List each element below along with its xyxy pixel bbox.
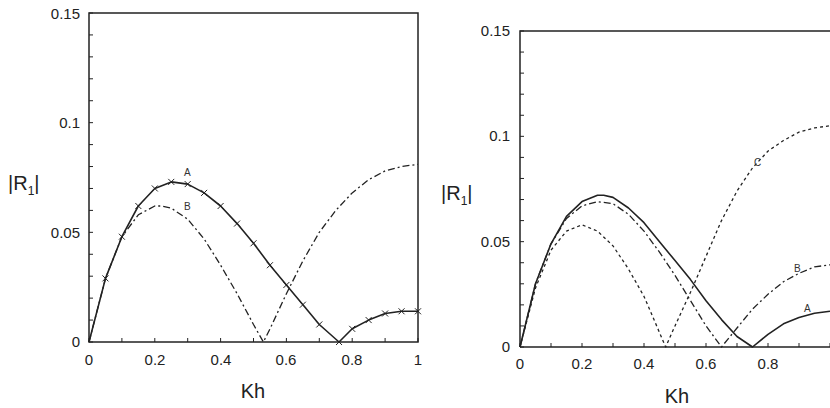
left-curves bbox=[89, 164, 421, 345]
right-xtick-0.6: 0.6 bbox=[696, 355, 717, 372]
left-ytick-0.05: 0.05 bbox=[51, 224, 80, 241]
left-x-marker-icon bbox=[349, 326, 355, 332]
right-xaxis-title: Kh bbox=[665, 385, 689, 407]
right-axis-ticks bbox=[520, 31, 830, 347]
left-ytick-0.1: 0.1 bbox=[59, 114, 80, 131]
right-yaxis-title: |R1| bbox=[441, 182, 473, 208]
left-chart-panel: 0 0.05 0.1 0.15 0 0.2 0.4 0.6 0.8 1 Kh |… bbox=[8, 5, 422, 402]
right-curves bbox=[520, 126, 830, 347]
right-chart-panel: 0 0.05 0.1 0.15 0 0.2 0.4 0.6 0.8 Kh |R1… bbox=[441, 22, 830, 407]
left-axis-ticks bbox=[89, 13, 418, 342]
left-ytick-0.15: 0.15 bbox=[51, 5, 80, 22]
right-ytick-0.15: 0.15 bbox=[481, 22, 510, 39]
right-label-a: A bbox=[804, 303, 811, 314]
left-label-b: B bbox=[184, 201, 191, 212]
left-curve-b bbox=[89, 164, 418, 342]
right-label-b: B bbox=[794, 263, 801, 274]
left-label-a: A bbox=[184, 167, 191, 178]
left-xtick-0.2: 0.2 bbox=[145, 351, 166, 368]
left-plot-frame bbox=[89, 13, 418, 342]
left-x-marker-icon bbox=[283, 282, 289, 288]
left-x-marker-icon bbox=[316, 321, 322, 327]
left-x-marker-icon bbox=[234, 221, 240, 227]
left-x-marker-icon bbox=[201, 190, 207, 196]
right-xtick-0: 0 bbox=[516, 355, 524, 372]
left-x-marker-icon bbox=[218, 203, 224, 209]
left-xtick-0.6: 0.6 bbox=[276, 351, 297, 368]
left-x-marker-icon bbox=[135, 203, 141, 209]
right-ytick-0: 0 bbox=[502, 338, 510, 355]
right-xtick-0.8: 0.8 bbox=[758, 355, 779, 372]
right-ytick-0.1: 0.1 bbox=[489, 127, 510, 144]
left-xtick-0.4: 0.4 bbox=[211, 351, 232, 368]
left-yaxis-title: |R1| bbox=[8, 172, 40, 198]
left-ytick-0: 0 bbox=[72, 333, 80, 350]
right-curve-c bbox=[520, 126, 830, 347]
right-label-c: C bbox=[754, 157, 761, 168]
left-xtick-0.8: 0.8 bbox=[342, 351, 363, 368]
left-x-marker-icon bbox=[251, 240, 257, 246]
left-x-marker-icon bbox=[267, 262, 273, 268]
left-xaxis-title: Kh bbox=[241, 380, 265, 402]
right-xtick-0.2: 0.2 bbox=[572, 355, 593, 372]
chart-canvas: 0 0.05 0.1 0.15 0 0.2 0.4 0.6 0.8 1 Kh |… bbox=[0, 0, 830, 408]
left-xtick-1: 1 bbox=[414, 351, 422, 368]
left-xtick-0: 0 bbox=[85, 351, 93, 368]
right-xtick-0.4: 0.4 bbox=[634, 355, 655, 372]
right-ytick-0.05: 0.05 bbox=[481, 233, 510, 250]
left-x-marker-icon bbox=[300, 302, 306, 308]
right-plot-frame bbox=[520, 31, 830, 347]
